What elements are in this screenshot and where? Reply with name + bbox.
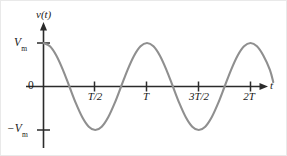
y-axis-arrow-icon: [40, 22, 47, 31]
waveform-plot-svg: [1, 1, 287, 156]
x-tick-label-t: T: [139, 91, 153, 102]
waveform-figure: v(t) Vm 0 −Vm T/2 T 3T/2 2T t: [0, 0, 287, 156]
vm-symbol: V: [14, 36, 21, 48]
x-tick-label-3t-half: 3T/2: [182, 91, 216, 102]
y-tick-label-negative-peak: −Vm: [7, 123, 28, 137]
neg-vm-subscript: m: [22, 130, 28, 139]
x-axis-arrow-icon: [260, 83, 269, 90]
y-tick-label-positive-peak: Vm: [14, 37, 27, 51]
x-tick-label-2t: 2T: [239, 91, 259, 102]
x-axis-label: t: [270, 80, 273, 91]
y-tick-label-origin: 0: [28, 80, 34, 92]
x-tick-label-t-half: T/2: [81, 91, 109, 102]
neg-vm-symbol: −V: [7, 122, 22, 134]
y-axis-label: v(t): [36, 9, 51, 20]
vm-subscript: m: [21, 44, 27, 53]
y-axis-label-text: v(t): [36, 8, 51, 20]
